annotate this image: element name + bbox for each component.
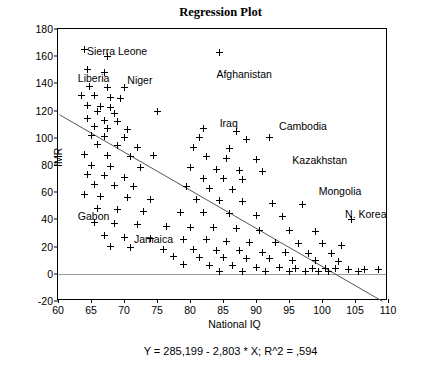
regression-equation: Y = 285,199 - 2,803 * X; R^2 = ,594 [10, 345, 441, 357]
x-tick-label: 100 [313, 304, 331, 316]
y-tick-label: -20 [38, 295, 53, 307]
x-tick-label: 70 [118, 304, 130, 316]
annotation-label: Cambodia [279, 120, 327, 132]
page-title: Regression Plot [0, 5, 441, 20]
x-tick-label: 65 [85, 304, 97, 316]
x-tick-mark [157, 299, 158, 303]
annotation-label: N. Korea [345, 208, 386, 220]
y-tick-label: 60 [41, 186, 53, 198]
regression-plot: Regression Plot IMR -2002040608010012014… [0, 0, 441, 380]
annotation-label: Afghanistan [216, 68, 271, 80]
y-tick-label: 120 [35, 105, 53, 117]
x-tick-label: 85 [217, 304, 229, 316]
x-tick-label: 95 [283, 304, 295, 316]
annotation-label: Jamaica [134, 233, 173, 245]
x-tick-mark [388, 299, 389, 303]
y-tick-label: 100 [35, 132, 53, 144]
x-axis-label: National IQ [14, 318, 441, 330]
annotation-label: Niger [127, 74, 152, 86]
x-tick-mark [190, 299, 191, 303]
y-tick-label: 0 [47, 268, 53, 280]
y-tick-label: 80 [41, 159, 53, 171]
y-tick-label: 160 [35, 50, 53, 62]
annotation-label: Kazakhstan [292, 154, 347, 166]
y-tick-label: 180 [35, 23, 53, 35]
x-tick-label: 90 [250, 304, 262, 316]
annotation-label: Sierra Leone [87, 45, 147, 57]
y-tick-label: 20 [41, 241, 53, 253]
x-tick-mark [124, 299, 125, 303]
x-tick-label: 75 [151, 304, 163, 316]
x-tick-label: 60 [52, 304, 64, 316]
x-tick-mark [58, 299, 59, 303]
y-tick-label: 140 [35, 77, 53, 89]
x-tick-mark [355, 299, 356, 303]
x-tick-mark [289, 299, 290, 303]
annotation-label: Iraq [220, 117, 238, 129]
x-tick-mark [223, 299, 224, 303]
x-tick-mark [256, 299, 257, 303]
annotation-label: Mongolia [319, 185, 362, 197]
x-tick-label: 105 [346, 304, 364, 316]
plot-area: IMR -20020406080100120140160180 60657075… [57, 28, 387, 300]
annotation-label: Liberia [78, 72, 110, 84]
x-tick-label: 80 [184, 304, 196, 316]
annotation-label: Gabon [78, 210, 110, 222]
x-tick-label: 110 [380, 304, 397, 316]
y-tick-label: 40 [41, 213, 53, 225]
x-tick-mark [322, 299, 323, 303]
x-tick-mark [91, 299, 92, 303]
